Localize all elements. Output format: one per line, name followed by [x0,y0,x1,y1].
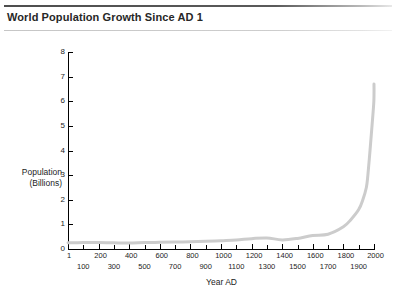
y-tick-label-2: 2 [25,196,65,204]
chart-plot-area: 8 7 6 5 4 3 2 1 0 1 200 400 600 800 1000… [0,34,398,303]
x-tick-1400 [282,244,283,250]
x-tick-label-1400: 1400 [272,251,298,260]
x-tick-1000 [221,244,222,250]
x-tick-label-1: 1 [56,251,82,260]
x-tick-label-1700: 1700 [315,262,341,271]
y-axis-title: Population (Billions) [0,167,62,189]
y-tick-label-8: 8 [25,48,65,56]
x-tick-label-500: 500 [132,262,158,271]
x-tick-label-1300: 1300 [254,262,280,271]
y-axis-title-line1: Population [0,167,62,178]
x-tick-600 [160,244,161,250]
y-tick-label-7: 7 [25,73,65,81]
x-tick-300 [114,245,115,250]
x-tick-label-300: 300 [101,262,127,271]
header-rule-bottom [4,30,392,31]
x-tick-label-1200: 1200 [241,251,267,260]
x-tick-2000 [374,244,375,250]
x-tick-label-700: 700 [162,262,188,271]
x-tick-1 [68,244,69,250]
y-tick-2 [69,200,73,201]
x-tick-1700 [328,245,329,250]
y-tick-6 [69,101,73,102]
x-tick-1500 [298,245,299,250]
x-tick-label-1500: 1500 [285,262,311,271]
y-tick-5 [69,126,73,127]
y-tick-label-1: 1 [25,220,65,228]
header-rule-top [4,5,392,7]
x-axis-title: Year AD [68,277,375,287]
y-axis-title-line2: (Billions) [0,178,62,189]
x-tick-1300 [267,245,268,250]
x-tick-800 [190,244,191,250]
x-tick-label-400: 400 [118,251,144,260]
x-tick-label-1000: 1000 [211,251,237,260]
x-tick-1900 [359,245,360,250]
y-tick-3 [69,175,73,176]
x-tick-label-1900: 1900 [346,262,372,271]
x-tick-label-900: 900 [193,262,219,271]
y-tick-0 [69,249,73,250]
y-tick-4 [69,151,73,152]
x-tick-label-100: 100 [70,262,96,271]
x-tick-400 [129,244,130,250]
y-tick-label-6: 6 [25,97,65,105]
x-tick-label-2000: 2000 [363,251,389,260]
x-tick-1100 [236,245,237,250]
x-tick-700 [175,245,176,250]
y-tick-label-5: 5 [25,122,65,130]
population-curve [68,84,374,243]
x-tick-label-1800: 1800 [333,251,359,260]
x-tick-label-1600: 1600 [302,251,328,260]
x-tick-1200 [252,244,253,250]
x-tick-label-800: 800 [179,251,205,260]
x-tick-1800 [343,244,344,250]
y-tick-8 [69,52,73,53]
x-tick-900 [206,245,207,250]
x-tick-label-200: 200 [88,251,114,260]
x-tick-label-600: 600 [149,251,175,260]
page-title: World Population Growth Since AD 1 [7,11,203,23]
chart-header: World Population Growth Since AD 1 [0,0,398,34]
x-tick-100 [83,245,84,250]
y-tick-1 [69,224,73,225]
x-tick-500 [145,245,146,250]
x-tick-label-1100: 1100 [223,262,249,271]
y-tick-label-4: 4 [25,147,65,155]
y-tick-7 [69,77,73,78]
x-tick-1600 [313,244,314,250]
x-tick-200 [99,244,100,250]
